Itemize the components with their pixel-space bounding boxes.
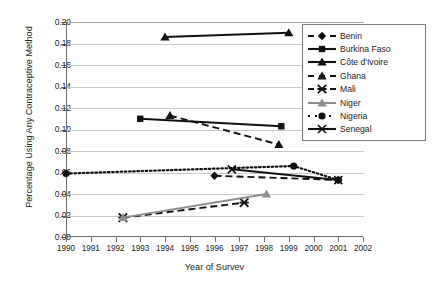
legend-item-niger[interactable]: Niger (307, 96, 421, 109)
data-point-triangle (317, 71, 326, 79)
y-tick-label: 0.02 (31, 211, 71, 219)
chart-legend: BeninBurkina FasoCôte d'IvoireGhanaMaliN… (302, 24, 426, 141)
x-tick-mark (363, 237, 364, 242)
gridline (67, 151, 364, 152)
y-tick-label: 0.16 (31, 61, 71, 69)
legend-label: Nigeria (337, 111, 367, 121)
x-tick-mark (140, 237, 141, 242)
x-tick-mark (264, 237, 265, 242)
data-point-diamond (318, 31, 326, 39)
y-tick-label: 0.18 (31, 39, 71, 47)
legend-swatch-square (307, 43, 337, 55)
x-axis-label: Year of Survev (66, 262, 363, 272)
legend-item-ghana[interactable]: Ghana (307, 69, 421, 82)
gridline (67, 22, 364, 23)
legend-label: Mali (337, 84, 356, 94)
y-tick-label: 0.10 (31, 125, 71, 133)
legend-swatch-triangle (307, 70, 337, 82)
legend-item-benin[interactable]: Benin (307, 29, 421, 42)
x-tick-mark (66, 237, 67, 242)
legend-label: Senegal (337, 124, 372, 134)
x-tick-mark (190, 237, 191, 242)
data-point-circle (318, 112, 325, 119)
legend-swatch-circle (307, 110, 337, 122)
legend-label: Niger (337, 98, 361, 108)
x-tick-mark (239, 237, 240, 242)
y-tick-label: 0.08 (31, 147, 71, 155)
y-tick-label: 0.14 (31, 82, 71, 90)
legend-swatch-triangle (307, 97, 337, 109)
x-tick-mark (289, 237, 290, 242)
legend-item-senegal[interactable]: Senegal (307, 123, 421, 136)
contraceptive-use-line-chart: Percentage Using Any Contraceptive Metho… (0, 0, 439, 291)
x-tick-mark (314, 237, 315, 242)
legend-label: Benin (337, 31, 362, 41)
gridline (67, 216, 364, 217)
legend-item-nigeria[interactable]: Nigeria (307, 109, 421, 122)
legend-label: Ghana (337, 71, 366, 81)
legend-swatch-triangle (307, 56, 337, 68)
gridline (67, 173, 364, 174)
x-tick-mark (215, 237, 216, 242)
legend-swatch-diamond (307, 30, 337, 42)
legend-label: Burkina Faso (337, 44, 391, 54)
legend-swatch-star-x (307, 83, 337, 95)
data-point-star-x (317, 85, 326, 93)
legend-label: Côte d'Ivoire (337, 57, 388, 67)
data-point-square (319, 46, 325, 52)
y-tick-label: 0.12 (31, 104, 71, 112)
y-tick-label: 0.04 (31, 190, 71, 198)
legend-item-mali[interactable]: Mali (307, 83, 421, 96)
x-tick-mark (338, 237, 339, 242)
y-tick-label: 0.20 (31, 18, 71, 26)
y-tick-label: 0.00 (31, 233, 71, 241)
x-tick-label: 2002 (346, 244, 380, 253)
gridline (67, 194, 364, 195)
legend-item-c-te-d-ivoire[interactable]: Côte d'Ivoire (307, 56, 421, 69)
legend-item-burkina-faso[interactable]: Burkina Faso (307, 42, 421, 55)
x-tick-mark (116, 237, 117, 242)
y-tick-label: 0.06 (31, 168, 71, 176)
x-tick-mark (165, 237, 166, 242)
x-tick-mark (91, 237, 92, 242)
legend-swatch-x (307, 123, 337, 135)
